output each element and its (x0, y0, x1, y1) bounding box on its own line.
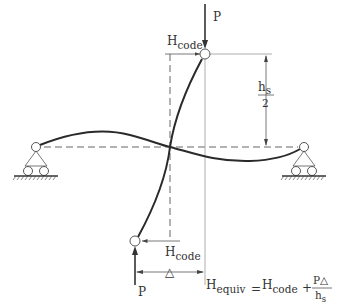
top-force-label: Hcode (167, 34, 203, 51)
formula-rhs: Hcode (262, 278, 298, 295)
bottom-load-label: P (138, 285, 146, 299)
formula-lhs: Hequiv (206, 278, 246, 295)
drift-label: △ (165, 265, 175, 279)
dim-arrow-up-icon (264, 55, 268, 62)
right-roller-support (281, 143, 326, 181)
bottom-joint-node (130, 236, 140, 246)
top-load-label: P (213, 10, 221, 24)
half-height-denominator: 2 (262, 97, 269, 109)
half-height-numerator: hs (258, 80, 271, 96)
bottom-force-label: Hcode (165, 245, 201, 262)
formula-fraction-numerator: P△ (313, 274, 329, 286)
drift-arrow-right-icon (197, 270, 204, 274)
formula-fraction-denominator: hs (315, 289, 326, 304)
bottom-load-arrow-head-icon (132, 246, 138, 255)
p-delta-diagram: P Hcode hs 2 Hcode △ P Hequiv = Hcode + … (0, 0, 340, 307)
left-roller-support (13, 143, 58, 181)
formula-equals: = (251, 282, 261, 296)
drift-arrow-left-icon (136, 270, 143, 274)
dim-arrow-down-icon (264, 139, 268, 146)
formula-plus: + (302, 281, 312, 295)
top-load-arrow-head-icon (202, 40, 208, 49)
